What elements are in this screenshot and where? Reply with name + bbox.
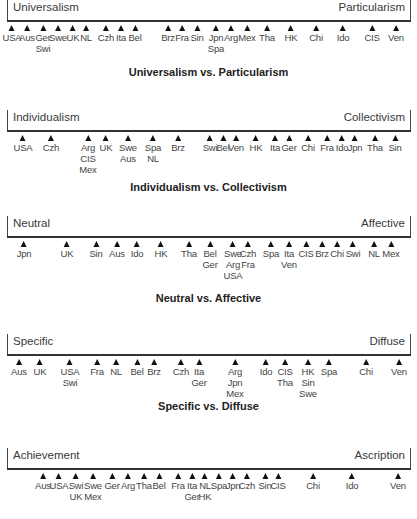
- triangle-marker-icon: [16, 359, 22, 365]
- country-label: HK: [299, 366, 317, 377]
- axis-line: [7, 468, 411, 470]
- country-labels: Mex: [238, 32, 255, 43]
- country-labels: Bel: [152, 480, 165, 491]
- country-label: UK: [34, 366, 47, 377]
- country-labels: ArgCISMex: [79, 142, 96, 175]
- country-label: Arg: [224, 32, 238, 43]
- country-label: Ven: [388, 32, 404, 43]
- triangle-marker-icon: [125, 135, 131, 141]
- country-label: Ita: [116, 32, 126, 43]
- triangle-marker-icon: [244, 25, 250, 31]
- triangle-marker-icon: [216, 473, 222, 479]
- triangle-marker-icon: [244, 473, 250, 479]
- triangle-marker-icon: [85, 135, 91, 141]
- country-label: Sin: [190, 32, 203, 43]
- triangle-marker-icon: [21, 241, 27, 247]
- triangle-marker-icon: [186, 241, 192, 247]
- country-label: Chi: [330, 248, 344, 259]
- triangle-marker-icon: [64, 241, 70, 247]
- country-marker: UK: [61, 241, 74, 259]
- country-marker: SweMex: [84, 473, 102, 502]
- dimension-title: Individualism vs. Collectivism: [0, 181, 417, 193]
- country-marker: Czh: [43, 135, 59, 153]
- triangle-marker-icon: [220, 135, 226, 141]
- country-label: Arg: [226, 366, 243, 377]
- triangle-marker-icon: [114, 241, 120, 247]
- country-label: UK: [67, 32, 80, 43]
- country-label: Bel: [202, 248, 217, 259]
- triangle-marker-icon: [268, 241, 274, 247]
- country-label: Ven: [391, 366, 407, 377]
- triangle-marker-icon: [175, 473, 181, 479]
- country-labels: Czh: [43, 142, 59, 153]
- country-label: Fra: [171, 480, 185, 491]
- country-labels: Spa: [321, 366, 337, 377]
- axis-line: [7, 354, 411, 356]
- country-labels: Tha: [136, 480, 152, 491]
- country-label: Tha: [367, 142, 383, 153]
- country-labels: HK: [285, 32, 298, 43]
- country-marker: Bel: [130, 359, 143, 377]
- country-label: Brz: [161, 32, 175, 43]
- triangle-marker-icon: [396, 359, 402, 365]
- country-label: Swe: [299, 388, 317, 399]
- country-label: Fra: [320, 142, 334, 153]
- country-label: CIS: [79, 153, 96, 164]
- country-labels: HK: [155, 248, 168, 259]
- country-labels: Ido: [336, 142, 349, 153]
- country-marker: Czh: [173, 359, 189, 377]
- country-label: CIS: [298, 248, 313, 259]
- country-marker: Ido: [131, 241, 144, 259]
- country-labels: UK: [34, 366, 47, 377]
- right-bracket: [410, 110, 411, 131]
- country-labels: HK: [250, 142, 263, 153]
- country-labels: UK: [61, 248, 74, 259]
- triangle-marker-icon: [9, 25, 15, 31]
- country-labels: SweMex: [84, 480, 102, 502]
- country-marker: CzhFra: [240, 241, 256, 270]
- country-labels: UK: [67, 32, 80, 43]
- country-labels: SpaNL: [145, 142, 161, 164]
- country-labels: CISTha: [277, 366, 293, 388]
- triangle-marker-icon: [24, 25, 30, 31]
- triangle-marker-icon: [371, 241, 377, 247]
- country-marker: CISTha: [277, 359, 293, 388]
- country-labels: Chi: [330, 248, 344, 259]
- country-labels: CIS: [270, 480, 285, 491]
- triangle-marker-icon: [48, 135, 54, 141]
- country-label: Mex: [382, 248, 399, 259]
- country-marker: Bel: [152, 473, 165, 491]
- triangle-marker-icon: [264, 25, 270, 31]
- dimension-title: Specific vs. Diffuse: [0, 400, 417, 412]
- country-label: Ido: [336, 142, 349, 153]
- country-marker: Ido: [336, 135, 349, 153]
- country-labels: Aus: [35, 480, 51, 491]
- axis-line: [7, 236, 411, 238]
- dimension-scale: NeutralAffectiveJpnUKSinAusIdoHKThaBelGe…: [0, 216, 417, 276]
- country-marker: Ven: [228, 135, 244, 153]
- country-labels: Aus: [19, 32, 35, 43]
- country-label: Ven: [228, 142, 244, 153]
- country-label: Mex: [84, 491, 102, 502]
- country-label: Bel: [152, 480, 165, 491]
- country-label: Chi: [309, 32, 323, 43]
- country-label: Tha: [136, 480, 152, 491]
- country-label: Ita: [281, 248, 297, 259]
- country-marker: ItaGer: [191, 359, 206, 388]
- country-marker: Tha: [367, 135, 383, 153]
- country-marker: Aus: [35, 473, 51, 491]
- right-bracket: [410, 216, 411, 237]
- country-marker: Swe: [49, 25, 67, 43]
- country-label: Ita: [191, 366, 206, 377]
- triangle-marker-icon: [73, 473, 79, 479]
- country-marker: Ger: [104, 473, 119, 491]
- country-marker: Spa: [321, 359, 337, 377]
- country-label: Swi: [203, 142, 218, 153]
- triangle-marker-icon: [339, 135, 345, 141]
- triangle-marker-icon: [313, 25, 319, 31]
- triangle-marker-icon: [288, 25, 294, 31]
- triangle-marker-icon: [93, 241, 99, 247]
- triangle-marker-icon: [253, 135, 259, 141]
- country-marker: Sin: [89, 241, 102, 259]
- country-marker: NL: [80, 25, 92, 43]
